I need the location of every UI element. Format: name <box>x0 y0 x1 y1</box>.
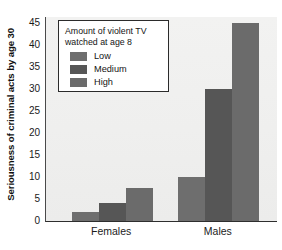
y-axis-title: Seriousness of criminal acts by age 30 <box>0 0 22 228</box>
y-tick-label: 15 <box>29 150 40 160</box>
x-axis-labels: FemalesMales <box>45 226 277 246</box>
bar-males-low <box>178 177 205 221</box>
legend-swatch-medium <box>70 65 87 74</box>
y-axis-ticks: 051015202530354045 <box>20 23 40 222</box>
bar-chart: Seriousness of criminal acts by age 30 0… <box>0 0 282 250</box>
y-tick-label: 30 <box>29 84 40 94</box>
y-tick-label: 0 <box>34 216 40 226</box>
legend-entry-low: Low <box>65 50 162 63</box>
bar-females-high <box>126 188 153 221</box>
legend-entry-high: High <box>65 76 162 89</box>
legend-label-low: Low <box>94 52 111 61</box>
bar-males-medium <box>205 89 232 221</box>
legend-label-medium: Medium <box>94 65 127 74</box>
legend-swatch-low <box>70 52 87 61</box>
legend-swatch-high <box>70 78 87 87</box>
legend-entries: LowMediumHigh <box>65 50 162 89</box>
y-tick-label: 45 <box>29 18 40 28</box>
y-tick-label: 40 <box>29 40 40 50</box>
y-tick-label: 25 <box>29 106 40 116</box>
bar-females-medium <box>99 203 126 221</box>
x-tick-label-females: Females <box>91 226 131 237</box>
legend-entry-medium: Medium <box>65 63 162 76</box>
y-tick-label: 35 <box>29 62 40 72</box>
bar-females-low <box>72 212 99 221</box>
legend-title: Amount of violent TV watched at age 8 <box>65 26 162 47</box>
legend-label-high: High <box>94 78 113 87</box>
y-tick-label: 5 <box>34 194 40 204</box>
y-tick-label: 10 <box>29 172 40 182</box>
y-tick-label: 20 <box>29 128 40 138</box>
legend: Amount of violent TV watched at age 8 Lo… <box>58 20 169 92</box>
bar-males-high <box>232 23 259 221</box>
y-axis-title-text: Seriousness of criminal acts by age 30 <box>6 28 16 201</box>
x-tick-label-males: Males <box>204 226 232 237</box>
